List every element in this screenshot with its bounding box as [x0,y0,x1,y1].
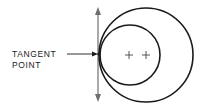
arrow-right-icon [92,52,98,57]
tangent-point-dot [97,52,100,55]
tangent-circles-diagram: TANGENT POINT [0,0,209,107]
leader-arrow [67,52,98,57]
arrow-down-icon [95,94,101,102]
tangent-label-line2: POINT [12,60,41,70]
tangent-label-line1: TANGENT [12,49,56,59]
center-mark-small-circle [125,51,133,59]
arrow-up-icon [95,7,101,15]
center-mark-large-circle [142,51,150,59]
